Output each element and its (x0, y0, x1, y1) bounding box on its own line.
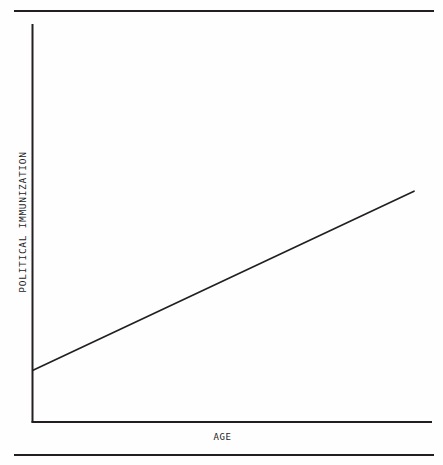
figure-container: POLITICAL IMMUNIZATION AGE (0, 0, 443, 465)
x-axis-label-text: AGE (213, 432, 231, 442)
x-axis-label: AGE (0, 432, 443, 442)
data-series-line (33, 191, 414, 370)
y-axis-label: POLITICAL IMMUNIZATION (17, 122, 28, 322)
page-rule-bottom-divider (14, 454, 434, 456)
line-chart-plot (0, 0, 443, 465)
